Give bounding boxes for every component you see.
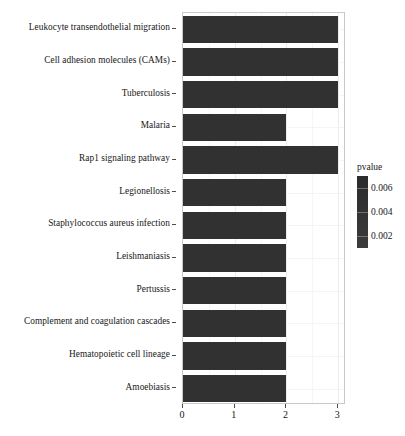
- legend-title: pvalue: [357, 162, 382, 172]
- bar: [183, 16, 338, 43]
- y-axis-tick-mark: [172, 355, 176, 356]
- plot-panel: [182, 12, 345, 404]
- y-axis-tick-mark: [172, 257, 176, 258]
- legend-pvalue: pvalue 0.0060.0040.002: [355, 162, 405, 257]
- y-axis-tick-label: Tuberculosis: [122, 89, 170, 99]
- y-axis-tick-8: Pertussis: [0, 281, 176, 299]
- y-axis-tick-label: Rap1 signaling pathway: [79, 154, 170, 164]
- y-axis-tick-mark: [172, 289, 176, 290]
- bar: [183, 179, 286, 206]
- y-axis-tick-5: Legionellosis: [0, 183, 176, 201]
- legend-tick-mark: [357, 236, 368, 237]
- y-axis-tick-mark: [172, 191, 176, 192]
- y-axis-tick-label: Amoebiasis: [126, 383, 170, 393]
- y-axis-tick-mark: [172, 159, 176, 160]
- y-axis-tick-9: Complement and coagulation cascades: [0, 313, 176, 331]
- legend-tick-mark: [357, 212, 368, 213]
- y-axis-tick-label: Leishmaniasis: [116, 252, 170, 262]
- y-axis-tick-label: Legionellosis: [119, 187, 170, 197]
- y-axis-tick-label: Staphylococcus aureus infection: [48, 219, 170, 229]
- y-axis-tick-11: Amoebiasis: [0, 379, 176, 397]
- y-axis-tick-0: Leukocyte transendothelial migration: [0, 19, 176, 37]
- y-axis-tick-label: Malaria: [141, 121, 170, 131]
- x-axis-tick-label: 2: [283, 409, 288, 420]
- bar: [183, 81, 338, 108]
- bar: [183, 48, 338, 75]
- y-axis-category-labels: Leukocyte transendothelial migrationCell…: [0, 12, 176, 404]
- x-axis-tick-label: 3: [335, 409, 340, 420]
- y-axis-tick-2: Tuberculosis: [0, 85, 176, 103]
- y-axis-tick-6: Staphylococcus aureus infection: [0, 215, 176, 233]
- y-axis-tick-mark: [172, 387, 176, 388]
- y-axis-tick-label: Complement and coagulation cascades: [24, 317, 170, 327]
- bar: [183, 212, 286, 239]
- x-axis-tick-label: 0: [180, 409, 185, 420]
- y-axis-tick-label: Leukocyte transendothelial migration: [29, 23, 170, 33]
- y-axis-tick-label: Pertussis: [136, 285, 170, 295]
- bar: [183, 244, 286, 271]
- y-axis-tick-mark: [172, 93, 176, 94]
- x-axis-tick-mark: [182, 404, 183, 408]
- y-axis-tick-1: Cell adhesion molecules (CAMs): [0, 52, 176, 70]
- bar-chart: Leukocyte transendothelial migrationCell…: [0, 0, 405, 436]
- bar: [183, 342, 286, 369]
- gridline-major: [338, 13, 339, 403]
- y-axis-tick-mark: [172, 61, 176, 62]
- x-axis-tick-label: 1: [231, 409, 236, 420]
- bar: [183, 277, 286, 304]
- x-axis: 0123: [182, 404, 345, 432]
- y-axis-tick-mark: [172, 224, 176, 225]
- y-axis-tick-label: Hematopoietic cell lineage: [69, 350, 170, 360]
- bar: [183, 310, 286, 337]
- y-axis-tick-3: Malaria: [0, 117, 176, 135]
- y-axis-tick-mark: [172, 28, 176, 29]
- y-axis-tick-label: Cell adhesion molecules (CAMs): [44, 56, 170, 66]
- y-axis-tick-7: Leishmaniasis: [0, 248, 176, 266]
- bar: [183, 375, 286, 402]
- y-axis-tick-10: Hematopoietic cell lineage: [0, 346, 176, 364]
- bar: [183, 114, 286, 141]
- legend-tick-label: 0.006: [371, 183, 392, 193]
- legend-tick-label: 0.002: [371, 231, 392, 241]
- x-axis-tick-mark: [234, 404, 235, 408]
- legend-tick-label: 0.004: [371, 207, 392, 217]
- legend-tick-mark: [357, 188, 368, 189]
- y-axis-tick-mark: [172, 322, 176, 323]
- x-axis-tick-mark: [285, 404, 286, 408]
- y-axis-tick-4: Rap1 signaling pathway: [0, 150, 176, 168]
- x-axis-tick-mark: [337, 404, 338, 408]
- y-axis-tick-mark: [172, 126, 176, 127]
- bar: [183, 146, 338, 173]
